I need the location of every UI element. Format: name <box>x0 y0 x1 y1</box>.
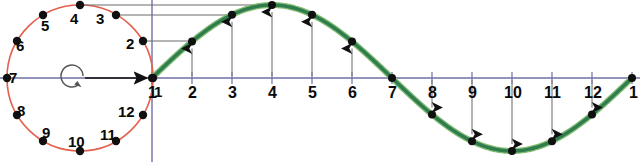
circle-point-label-12: 12 <box>118 104 135 119</box>
diagram-canvas: 1234567891011121234567891011121 <box>0 0 640 162</box>
circle-point-label-5: 5 <box>41 18 49 33</box>
circle-point-label-3: 3 <box>96 11 104 26</box>
wave-sample-dot-10 <box>548 137 556 145</box>
wave-sample-dot-3 <box>268 1 276 9</box>
circle-dot-12 <box>139 111 147 119</box>
wave-sample-dot-1 <box>188 38 196 46</box>
wave-sample-dot-9 <box>508 147 516 155</box>
axis-tick-label-0: 1 <box>148 85 157 101</box>
circle-dot-4 <box>76 1 84 9</box>
wave-sample-dot-5 <box>348 38 356 46</box>
circle-dot-2 <box>139 37 147 45</box>
axis-tick-label-11: 12 <box>584 85 602 101</box>
counterclockwise-rotation-icon <box>61 65 83 87</box>
axis-tick-label-6: 7 <box>388 85 397 101</box>
axis-tick-label-1: 2 <box>188 85 197 101</box>
circle-point-label-7: 7 <box>9 70 17 85</box>
circle-point-label-9: 9 <box>42 125 50 140</box>
circle-dot-1 <box>149 74 157 82</box>
axis-tick-label-5: 6 <box>348 85 357 101</box>
axis-tick-label-7: 8 <box>428 85 437 101</box>
circle-dot-3 <box>112 11 120 19</box>
axis-tick-label-9: 10 <box>504 85 522 101</box>
circle-point-label-6: 6 <box>16 38 24 53</box>
circle-point-label-10: 10 <box>68 134 85 149</box>
axis-tick-label-10: 11 <box>544 85 561 101</box>
circle-point-label-2: 2 <box>126 36 134 51</box>
axis-tick-label-4: 5 <box>308 85 317 101</box>
wave-sample-dot-4 <box>308 11 316 19</box>
axis-tick-label-12: 1 <box>629 85 638 101</box>
axis-tick-label-8: 9 <box>468 85 477 101</box>
wave-sample-dot-11 <box>588 111 596 119</box>
axis-tick-label-2: 3 <box>228 85 237 101</box>
circle-point-label-11: 11 <box>100 127 116 142</box>
wave-sample-dot-2 <box>228 11 236 19</box>
axis-tick-label-3: 4 <box>268 85 277 101</box>
circle-point-label-8: 8 <box>17 103 25 118</box>
wave-sample-dot-8 <box>468 137 476 145</box>
circle-point-label-4: 4 <box>70 11 78 26</box>
wave-sample-dot-12 <box>628 74 636 82</box>
wave-sample-dot-6 <box>388 74 396 82</box>
wave-sample-dot-7 <box>428 111 436 119</box>
